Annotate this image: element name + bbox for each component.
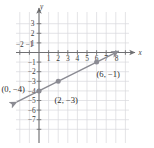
y-tick-label--3: −3: [28, 77, 36, 86]
point-label-6-minus1: (6, −1): [97, 69, 121, 79]
x-tick-label--2: −2: [16, 40, 24, 49]
x-tick-label-3: 3: [66, 54, 70, 63]
x-tick-label-5: 5: [85, 54, 89, 63]
y-tick-label--7: −7: [28, 115, 36, 124]
x-tick-label-8: 8: [115, 54, 119, 63]
data-point-0-minus4: [37, 88, 42, 93]
coordinate-plane-svg: −2 −1 1 2 3 4 5 6 7 8 3 2 1 −1 −2 −3 −4 …: [0, 0, 154, 148]
coordinate-plane-figure: −2 −1 1 2 3 4 5 6 7 8 3 2 1 −1 −2 −3 −4 …: [0, 0, 154, 148]
y-tick-label-1: 1: [31, 39, 35, 48]
x-tick-label-4: 4: [76, 54, 80, 63]
plot-background: [0, 0, 154, 148]
y-tick-label--2: −2: [28, 67, 36, 76]
y-tick-label--1: −1: [28, 58, 36, 67]
x-tick-label-2: 2: [56, 54, 60, 63]
y-tick-label-2: 2: [31, 29, 35, 38]
point-label-0-minus4: (0, −4): [2, 84, 26, 94]
x-tick-label-1: 1: [47, 54, 51, 63]
y-tick-label--5: −5: [28, 96, 36, 105]
data-point-2-minus3: [56, 79, 61, 84]
data-point-6-minus1: [94, 60, 99, 65]
point-label-2-minus3: (2, −3): [55, 95, 79, 105]
y-tick-label-3: 3: [31, 19, 35, 28]
y-tick-label--6: −6: [28, 106, 36, 115]
